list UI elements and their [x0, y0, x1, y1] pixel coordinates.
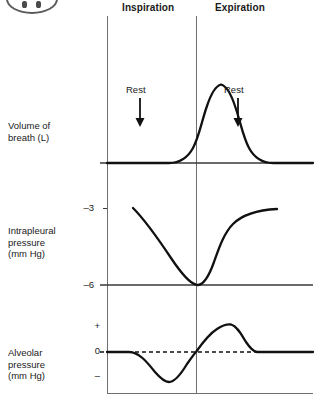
panel-alveolar-pressure — [107, 310, 313, 393]
row-label-intrapleural-line2: pressure — [8, 237, 100, 249]
row-label-volume: Volume of breath (L) — [8, 120, 100, 143]
row-label-alveolar-line2: pressure — [8, 359, 100, 371]
intrapleural-curve — [133, 208, 277, 285]
volume-plot-svg — [107, 20, 313, 170]
ytick-intrapleural-minus6: –6 — [68, 279, 94, 290]
respiratory-cycle-figure: Inspiration Expiration Volume of breath … — [0, 0, 321, 405]
logo-dot-left — [22, 1, 27, 8]
rest-label-expiration: Rest — [224, 84, 244, 95]
ytick-intrapleural-minus3: –3 — [68, 202, 94, 213]
logo-badge-icon — [6, 0, 58, 14]
rest-arrow-right-icon — [232, 98, 244, 132]
figure-bottom-rule — [107, 393, 313, 394]
phase-header-expiration: Expiration — [215, 2, 265, 13]
logo-dot-right — [36, 1, 41, 8]
ytick-alveolar-plus: + — [74, 320, 100, 331]
rest-arrow-left-icon — [134, 98, 146, 132]
ytick-alveolar-minus: – — [74, 370, 100, 381]
row-label-volume-line2: breath (L) — [8, 132, 100, 144]
alveolar-plot-svg — [107, 310, 313, 393]
rest-label-inspiration: Rest — [126, 84, 146, 95]
panel-intrapleural-pressure — [107, 196, 313, 292]
ytick-alveolar-zero: 0 — [74, 345, 100, 356]
row-label-intrapleural-line3: (mm Hg) — [8, 248, 100, 260]
alveolar-curve — [107, 324, 313, 382]
intrapleural-plot-svg — [107, 196, 313, 292]
row-label-volume-line1: Volume of — [8, 120, 100, 132]
row-label-intrapleural-line1: Intrapleural — [8, 225, 100, 237]
phase-header-inspiration: Inspiration — [122, 2, 174, 13]
panel-volume-of-breath — [107, 20, 313, 170]
row-label-intrapleural: Intrapleural pressure (mm Hg) — [8, 225, 100, 260]
